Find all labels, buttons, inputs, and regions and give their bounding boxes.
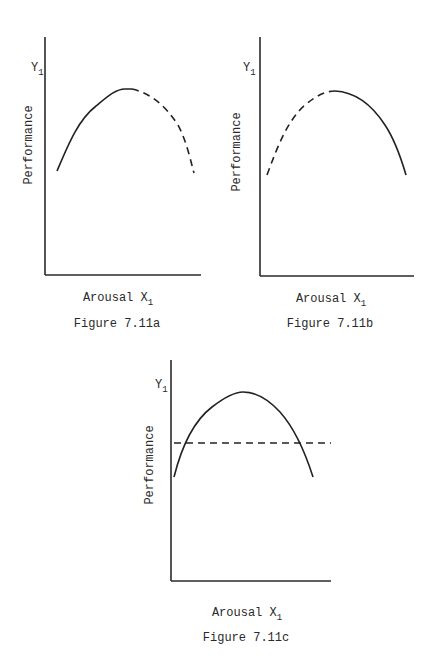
- curve-dashed-falling: [132, 89, 194, 173]
- curve-solid-falling: [335, 91, 406, 175]
- y-marker: Y1: [243, 61, 256, 78]
- curve-dashed-rising: [267, 91, 335, 175]
- x-axis-label: Arousal X1: [296, 292, 366, 309]
- figure-7-11c: Y1 Performance Arousal X1 Figure 7.11c: [143, 360, 331, 645]
- y-marker: Y1: [31, 61, 44, 78]
- figure-canvas: Y1 Performance Arousal X1 Figure 7.11a Y…: [0, 0, 432, 670]
- y-axis-label: Performance: [22, 105, 36, 184]
- figure-7-11b: Y1 Performance Arousal X1 Figure 7.11b: [230, 37, 414, 331]
- curve-inverted-u: [174, 392, 313, 477]
- y-axis-label: Performance: [143, 425, 157, 504]
- figure-caption: Figure 7.11b: [287, 317, 373, 331]
- y-axis-label: Performance: [230, 112, 244, 191]
- figure-caption: Figure 7.11a: [74, 317, 160, 331]
- y-marker: Y1: [155, 378, 168, 395]
- curve-solid-rising: [57, 89, 132, 171]
- figure-caption: Figure 7.11c: [203, 631, 289, 645]
- x-axis-label: Arousal X1: [83, 291, 153, 308]
- x-axis-label: Arousal X1: [212, 606, 282, 623]
- figure-7-11a: Y1 Performance Arousal X1 Figure 7.11a: [22, 37, 201, 331]
